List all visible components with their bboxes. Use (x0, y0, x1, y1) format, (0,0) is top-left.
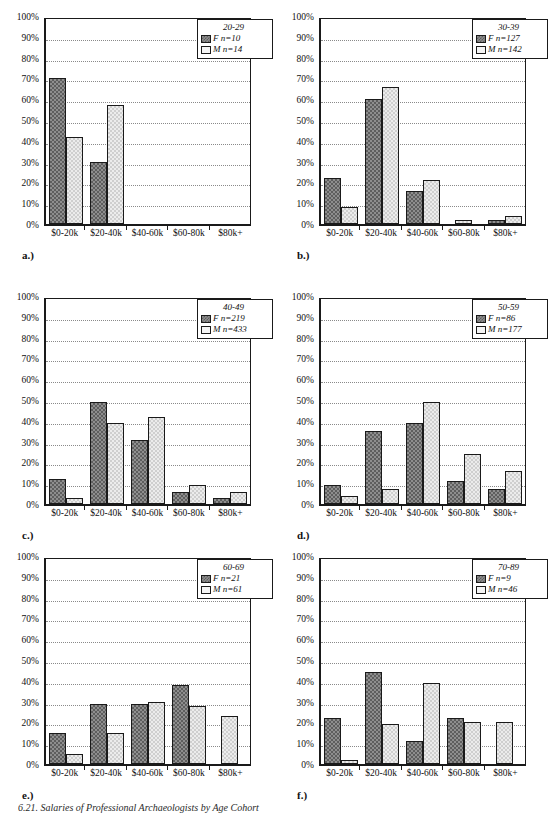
bar-m-4060k (148, 702, 165, 764)
y-tick-label: 10% (22, 740, 39, 749)
bar-f-2040k (90, 162, 107, 224)
legend-title: 20-29 (201, 22, 268, 33)
bar-m-2040k (107, 105, 124, 224)
y-tick-label: 100% (17, 293, 39, 302)
x-tick-label: $40-60k (127, 228, 168, 239)
chart-panel-e: 100%90%80%70%60%50%40%30%20%10%0%$0-20k$… (0, 540, 275, 798)
legend-item-f: F n=219 (201, 313, 268, 324)
y-tick-label: 40% (297, 678, 314, 687)
bar-f-020k (49, 479, 66, 504)
bar-group (128, 299, 169, 504)
y-axis-labels: 100%90%80%70%60%50%40%30%20%10%0% (275, 558, 319, 766)
bar-f-020k (324, 178, 341, 224)
y-tick-label: 20% (297, 459, 314, 468)
legend-swatch-m-icon (201, 326, 211, 334)
x-axis-labels: $0-20k$20-40k$40-60k$60-80k$80k+ (319, 508, 526, 519)
y-tick-label: 70% (297, 355, 314, 364)
y-tick-label: 90% (22, 34, 39, 43)
y-tick-label: 50% (297, 117, 314, 126)
legend-title: 60-69 (201, 562, 268, 573)
bar-m-020k (341, 496, 358, 504)
x-tick-label: $0-20k (44, 228, 85, 239)
x-tick-label: $40-60k (402, 508, 443, 519)
y-tick-label: 50% (297, 657, 314, 666)
y-tick-label: 90% (22, 314, 39, 323)
x-tick-label: $60-80k (168, 768, 209, 779)
legend-item-f: F n=86 (476, 313, 543, 324)
legend-item-m: M n=61 (201, 584, 268, 595)
y-tick-label: 80% (297, 335, 314, 344)
bar-group (321, 299, 362, 504)
y-tick-label: 0% (26, 501, 39, 510)
legend-label: M n=46 (488, 584, 517, 595)
y-tick-label: 10% (297, 200, 314, 209)
y-tick-label: 90% (297, 314, 314, 323)
bar-m-6080k (189, 706, 206, 764)
chart-panel-d: 100%90%80%70%60%50%40%30%20%10%0%$0-20k$… (275, 280, 550, 540)
x-axis-labels: $0-20k$20-40k$40-60k$60-80k$80k+ (319, 228, 526, 239)
x-tick-label: $80k+ (485, 768, 526, 779)
bar-m-4060k (148, 417, 165, 504)
bar-f-020k (324, 718, 341, 764)
legend-label: M n=14 (213, 44, 242, 55)
legend-title: 50-59 (476, 302, 543, 313)
bar-m-4060k (423, 402, 440, 504)
x-axis-labels: $0-20k$20-40k$40-60k$60-80k$80k+ (44, 768, 251, 779)
y-tick-label: 30% (297, 159, 314, 168)
panel-label: e.) (22, 789, 33, 801)
legend-item-m: M n=46 (476, 584, 543, 595)
bar-f-2040k (365, 672, 382, 764)
x-tick-label: $0-20k (319, 768, 360, 779)
x-tick-label: $80k+ (485, 508, 526, 519)
bar-group (87, 559, 128, 764)
y-axis-labels: 100%90%80%70%60%50%40%30%20%10%0% (275, 298, 319, 506)
bar-group (46, 559, 87, 764)
legend-title: 70-89 (476, 562, 543, 573)
bar-group (321, 559, 362, 764)
legend-label: F n=10 (213, 33, 240, 44)
bar-group (87, 299, 128, 504)
legend-swatch-f-icon (201, 575, 211, 583)
y-tick-label: 70% (22, 615, 39, 624)
legend-swatch-m-icon (201, 46, 211, 54)
x-tick-label: $60-80k (168, 228, 209, 239)
y-tick-label: 80% (297, 55, 314, 64)
chart-legend: 20-29F n=10M n=14 (197, 19, 273, 59)
chart-legend: 60-69F n=21M n=61 (197, 559, 273, 599)
legend-title: 30-39 (476, 22, 543, 33)
x-tick-label: $40-60k (127, 508, 168, 519)
bar-f-2040k (90, 704, 107, 764)
y-tick-label: 0% (301, 221, 314, 230)
bar-m-2040k (382, 87, 399, 224)
bar-group (403, 19, 444, 224)
legend-item-m: M n=14 (201, 44, 268, 55)
y-tick-label: 30% (22, 699, 39, 708)
bar-m-2040k (382, 724, 399, 764)
chart-legend: 50-59F n=86M n=177 (472, 299, 548, 339)
y-tick-label: 70% (297, 75, 314, 84)
y-tick-label: 0% (26, 221, 39, 230)
bar-m-6080k (455, 220, 472, 224)
bar-m-6080k (189, 485, 206, 504)
chart-legend: 70-89F n=9M n=46 (472, 559, 548, 599)
legend-swatch-m-icon (476, 326, 486, 334)
bar-f-6080k (447, 481, 464, 504)
y-tick-label: 80% (297, 595, 314, 604)
y-tick-label: 20% (297, 719, 314, 728)
legend-label: M n=433 (213, 324, 247, 335)
y-tick-label: 70% (297, 615, 314, 624)
bar-m-6080k (464, 722, 481, 764)
y-tick-label: 10% (22, 200, 39, 209)
bar-f-020k (324, 485, 341, 504)
y-tick-label: 60% (22, 96, 39, 105)
bar-f-020k (49, 78, 66, 224)
bar-m-4060k (423, 180, 440, 224)
x-axis-labels: $0-20k$20-40k$40-60k$60-80k$80k+ (319, 768, 526, 779)
bar-m-80k (505, 471, 522, 504)
legend-item-m: M n=177 (476, 324, 543, 335)
legend-item-f: F n=127 (476, 33, 543, 44)
y-tick-label: 80% (22, 595, 39, 604)
y-tick-label: 30% (22, 159, 39, 168)
legend-item-f: F n=21 (201, 573, 268, 584)
legend-swatch-m-icon (476, 586, 486, 594)
